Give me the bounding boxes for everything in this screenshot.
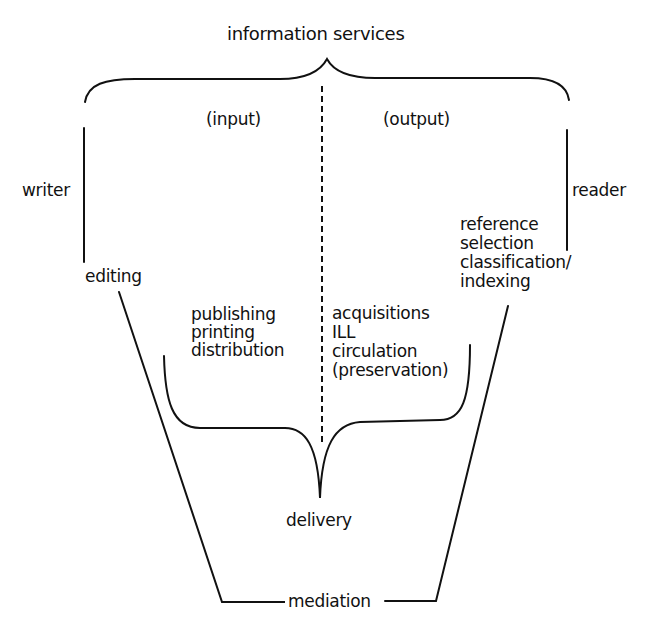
right-upper-stages: reference selection classification/ inde… [460,215,571,291]
stage-selection: selection [460,234,571,253]
stage-editing: editing [85,267,142,285]
stage-ill: ILL [332,323,448,342]
top-brace [85,59,569,102]
label-mediation: mediation [285,592,374,610]
stage-acquisitions: acquisitions [332,304,448,323]
stage-reference: reference [460,215,571,234]
right-lower-stages: acquisitions ILL circulation (preservati… [332,304,448,380]
left-lower-stages: publishing printing distribution [191,305,284,359]
stage-circulation: circulation [332,342,448,361]
stage-publishing: publishing [191,305,284,323]
label-output: (output) [383,110,450,128]
stage-indexing: indexing [460,272,571,291]
stage-preservation: (preservation) [332,361,448,380]
diagram-canvas: information services (input) (output) wr… [0,0,657,622]
actor-reader: reader [572,181,626,199]
label-delivery: delivery [286,511,352,529]
stage-distribution: distribution [191,341,284,359]
actor-writer: writer [22,181,70,199]
stage-printing: printing [191,323,284,341]
label-input: (input) [206,110,261,128]
stage-classification: classification/ [460,253,571,272]
title-information-services: information services [227,25,404,43]
